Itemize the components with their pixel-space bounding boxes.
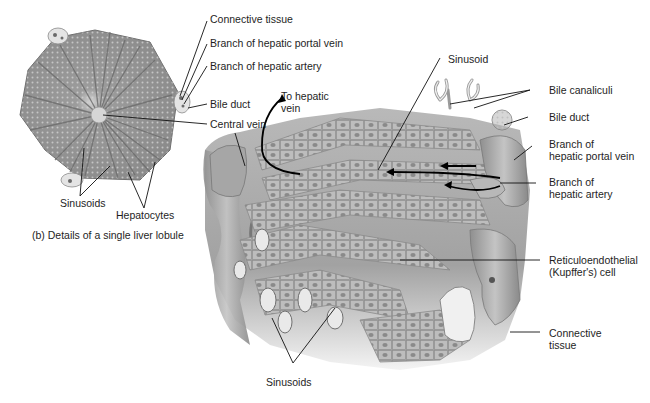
label-branch-hepatic-artery-detail: Branch of hepatic artery xyxy=(549,176,613,200)
label-central-vein: Central vein xyxy=(210,118,266,130)
label-bile-duct-detail: Bile duct xyxy=(549,111,589,123)
label-sinusoid: Sinusoid xyxy=(448,53,488,65)
label-to-hepatic-vein: To hepatic vein xyxy=(281,90,329,114)
label-kupffer-cell: Reticuloendothelial (Kupffer's) cell xyxy=(549,254,638,278)
label-branch-portal-vein-detail: Branch of hepatic portal vein xyxy=(549,138,634,162)
label-sinusoids-detail: Sinusoids xyxy=(266,376,312,388)
liver-lobule xyxy=(20,28,190,187)
label-branch-hepatic-artery-lobule: Branch of hepatic artery xyxy=(210,60,321,72)
label-sinusoids-lobule: Sinusoids xyxy=(60,197,106,209)
label-bile-duct-lobule: Bile duct xyxy=(210,98,250,110)
label-connective-tissue-detail: Connective tissue xyxy=(549,327,602,351)
label-bile-canaliculi: Bile canaliculi xyxy=(549,84,613,96)
label-branch-portal-vein-lobule: Branch of hepatic portal vein xyxy=(210,37,343,49)
label-connective-tissue-lobule: Connective tissue xyxy=(210,13,293,25)
label-hepatocytes: Hepatocytes xyxy=(116,209,174,221)
figure-caption: (b) Details of a single liver lobule xyxy=(32,229,184,241)
